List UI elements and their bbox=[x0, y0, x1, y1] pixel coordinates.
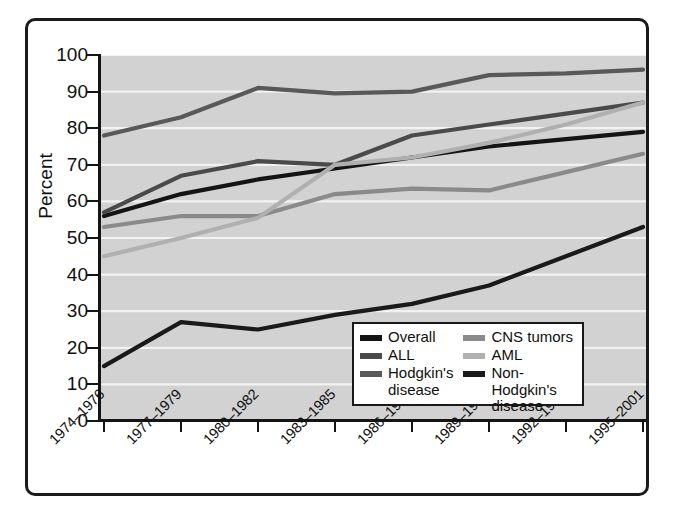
legend-item: Overall bbox=[360, 329, 453, 345]
legend-swatch bbox=[463, 371, 485, 377]
x-tick bbox=[642, 421, 644, 432]
legend-item: Hodgkin'sdisease bbox=[360, 365, 453, 397]
legend-item: CNS tumors bbox=[463, 329, 576, 345]
x-tick bbox=[334, 421, 336, 432]
y-tick-label: 60 bbox=[46, 191, 88, 210]
legend-item: AML bbox=[463, 347, 576, 363]
legend-label: Hodgkin'sdisease bbox=[388, 365, 453, 397]
legend-swatch bbox=[360, 335, 382, 341]
legend-label: ALL bbox=[388, 347, 415, 363]
legend-swatch bbox=[360, 371, 382, 377]
series-line bbox=[104, 103, 643, 257]
y-tick-label: 10 bbox=[46, 374, 88, 393]
legend: OverallALLHodgkin'sdisease CNS tumorsAML… bbox=[352, 322, 584, 406]
legend-item: ALL bbox=[360, 347, 453, 363]
y-tick-label: 70 bbox=[46, 155, 88, 174]
legend-label: Overall bbox=[388, 329, 436, 345]
legend-item: Non-Hodgkin'sdisease bbox=[463, 365, 576, 414]
x-tick bbox=[411, 421, 413, 432]
y-tick-label: 100 bbox=[46, 45, 88, 64]
y-tick-label: 30 bbox=[46, 301, 88, 320]
y-tick-label: 20 bbox=[46, 338, 88, 357]
figure: Percent 1009080706050403020100 1974–1976… bbox=[0, 0, 673, 515]
legend-label: CNS tumors bbox=[491, 329, 573, 345]
y-tick-label: 80 bbox=[46, 118, 88, 137]
legend-column-right: CNS tumorsAMLNon-Hodgkin'sdisease bbox=[463, 329, 576, 414]
x-tick bbox=[103, 421, 105, 432]
x-tick bbox=[257, 421, 259, 432]
x-tick bbox=[565, 421, 567, 432]
y-tick-label: 40 bbox=[46, 265, 88, 284]
y-tick-label: 50 bbox=[46, 228, 88, 247]
legend-label: AML bbox=[491, 347, 522, 363]
series-line bbox=[104, 103, 643, 213]
x-tick bbox=[488, 421, 490, 432]
legend-swatch bbox=[463, 353, 485, 359]
legend-label: Non-Hodgkin'sdisease bbox=[491, 365, 576, 414]
legend-swatch bbox=[360, 353, 382, 359]
x-tick bbox=[180, 421, 182, 432]
legend-column-left: OverallALLHodgkin'sdisease bbox=[360, 329, 453, 414]
legend-swatch bbox=[463, 335, 485, 341]
y-tick-label: 90 bbox=[46, 82, 88, 101]
y-axis-line bbox=[98, 54, 101, 422]
